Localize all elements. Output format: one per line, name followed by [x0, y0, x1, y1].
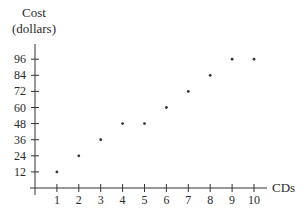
y-axis-title-line-1: Cost — [22, 5, 46, 20]
data-point — [209, 74, 212, 77]
data-point — [121, 122, 124, 125]
x-tick-label: 10 — [248, 193, 260, 207]
x-tick-label: 8 — [207, 193, 213, 207]
scatter-chart: Cost (dollars) CDs 1224364860728496 1234… — [0, 0, 305, 214]
y-tick-label: 24 — [14, 149, 26, 163]
data-point — [77, 154, 80, 157]
data-points — [56, 58, 256, 174]
y-tick-label: 36 — [14, 133, 26, 147]
x-tick-label: 4 — [120, 193, 126, 207]
data-point — [165, 106, 168, 109]
x-ticks: 12345678910 — [54, 184, 260, 207]
x-tick-label: 9 — [229, 193, 235, 207]
data-point — [56, 171, 59, 174]
x-tick-label: 7 — [185, 193, 191, 207]
data-point — [231, 58, 234, 61]
y-axis-title-line-2: (dollars) — [12, 21, 56, 36]
y-axis-title: Cost (dollars) — [12, 5, 56, 36]
y-tick-label: 48 — [14, 117, 26, 131]
data-point — [143, 122, 146, 125]
x-axis-title: CDs — [272, 180, 295, 195]
data-point — [187, 90, 190, 93]
y-tick-label: 96 — [14, 52, 26, 66]
y-tick-label: 60 — [14, 101, 26, 115]
y-tick-label: 84 — [14, 68, 26, 82]
data-point — [253, 58, 256, 61]
x-tick-label: 2 — [76, 193, 82, 207]
x-tick-label: 1 — [54, 193, 60, 207]
x-tick-label: 5 — [142, 193, 148, 207]
y-tick-label: 72 — [14, 84, 26, 98]
data-point — [99, 138, 102, 141]
y-tick-label: 12 — [14, 165, 26, 179]
x-tick-label: 3 — [98, 193, 104, 207]
x-tick-label: 6 — [163, 193, 169, 207]
